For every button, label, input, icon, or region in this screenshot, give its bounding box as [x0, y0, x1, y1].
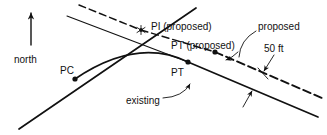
- offset-lower-arrow: [243, 91, 252, 107]
- existing-leader: [163, 84, 190, 98]
- proposed-alignment-dashed: [79, 5, 322, 98]
- pi-proposed-label: PI (proposed): [151, 21, 212, 32]
- pc-marker-icon: [72, 76, 77, 81]
- pt-label: PT: [171, 67, 184, 78]
- existing-label: existing: [126, 95, 160, 106]
- pt-marker-icon: [185, 59, 190, 64]
- offset-distance-label: 50 ft: [264, 43, 284, 54]
- pt-proposed-label: PT (proposed): [171, 40, 235, 51]
- proposed-leader: [239, 31, 256, 57]
- figure-canvas: north: [0, 0, 327, 135]
- pi-star-marker-icon: [137, 26, 145, 35]
- curve-realignment-diagram: north: [0, 0, 327, 135]
- north-label: north: [14, 54, 37, 65]
- proposed-label: proposed: [258, 21, 300, 32]
- existing-forward-tangent: [188, 62, 318, 117]
- pc-label: PC: [60, 65, 74, 76]
